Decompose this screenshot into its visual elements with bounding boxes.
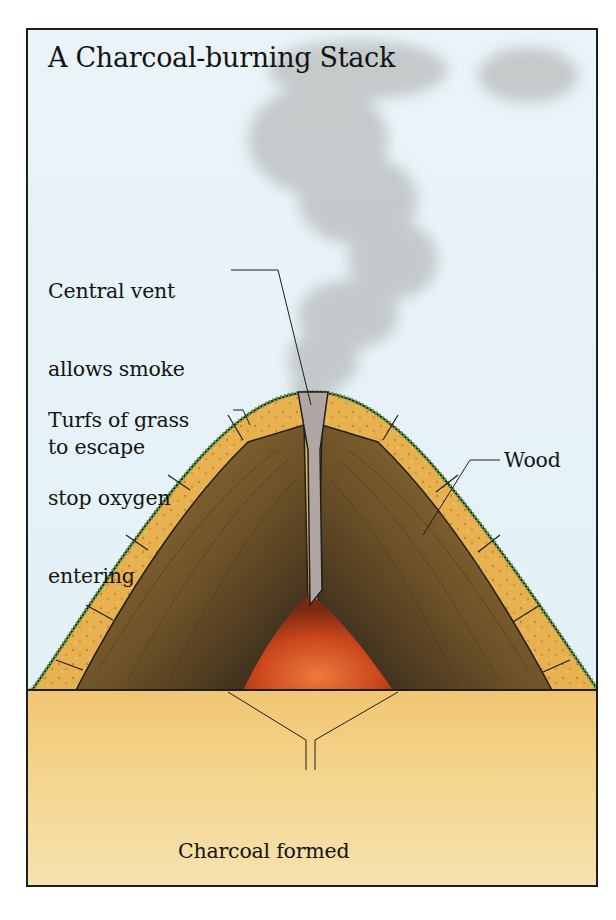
smoke-plume [248,40,578,410]
label-wood: Wood [504,447,561,473]
diagram-frame: A Charcoal-burning Stack Central vent al… [26,28,598,887]
charcoal-leader-2 [315,692,398,770]
label-turfs-of-grass: Turfs of grass stop oxygen entering [48,355,189,641]
diagram-title: A Charcoal-burning Stack [48,42,395,73]
label-charcoal: Charcoal formed by burning wood without … [178,786,398,887]
charcoal-leader [228,692,306,770]
